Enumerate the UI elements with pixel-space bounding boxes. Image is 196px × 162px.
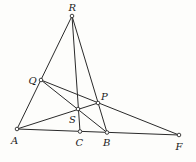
- point-p: [96, 101, 100, 105]
- geometry-diagram: RQPSACBF: [0, 0, 196, 162]
- diagram-canvas: RQPSACBF: [0, 0, 196, 162]
- segment-rb: [72, 16, 107, 133]
- point-s: [76, 107, 80, 111]
- point-r: [70, 14, 74, 18]
- label-p: P: [100, 91, 108, 102]
- segment-ra: [17, 16, 72, 129]
- label-q: Q: [29, 75, 37, 86]
- points-group: [15, 14, 181, 137]
- label-a: A: [10, 135, 18, 146]
- segment-af: [17, 129, 179, 135]
- label-c: C: [76, 137, 84, 148]
- segment-qf: [41, 80, 179, 135]
- point-c: [78, 130, 82, 134]
- point-q: [39, 78, 43, 82]
- label-s: S: [69, 114, 76, 125]
- point-b: [105, 131, 109, 135]
- point-f: [177, 133, 181, 137]
- segments-group: [17, 16, 179, 135]
- label-f: F: [175, 141, 184, 152]
- point-a: [15, 127, 19, 131]
- label-b: B: [102, 137, 110, 148]
- label-r: R: [68, 2, 77, 13]
